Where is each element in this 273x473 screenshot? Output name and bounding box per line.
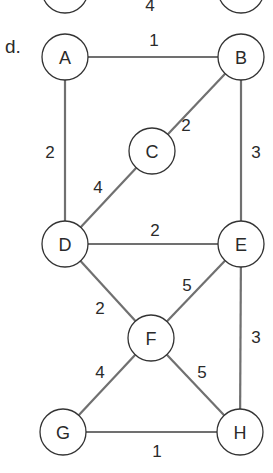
edge-weight-B-C: 2 <box>181 116 190 135</box>
edge-weight-F-G: 4 <box>95 363 104 382</box>
edge-E-H <box>240 244 241 432</box>
edge-weight-E-F: 5 <box>182 276 191 295</box>
node-E: E <box>218 221 264 267</box>
weighted-graph: 4 122342253451 ABCDEFGH <box>0 0 273 473</box>
partial-edge-weight: 4 <box>145 0 154 15</box>
edge-weight-D-E: 2 <box>150 221 159 240</box>
partial-node-1 <box>218 0 264 13</box>
node-label: F <box>146 329 157 349</box>
previous-subfigure-fragment: 4 <box>42 0 264 15</box>
node-C: C <box>129 128 175 174</box>
graph-edges <box>63 57 241 432</box>
node-A: A <box>42 34 88 80</box>
graph-diagram: d. 4 122342253451 ABCDEFGH <box>0 0 273 473</box>
node-B: B <box>218 34 264 80</box>
node-label: B <box>235 48 247 68</box>
node-label: E <box>235 235 247 255</box>
edge-weight-C-D: 4 <box>93 178 102 197</box>
node-F: F <box>128 315 174 361</box>
edge-weight-D-F: 2 <box>95 299 104 318</box>
edge-weight-F-H: 5 <box>197 363 206 382</box>
node-label: H <box>234 423 247 443</box>
subfigure-label: d. <box>5 36 21 58</box>
node-label: G <box>56 423 70 443</box>
node-D: D <box>42 221 88 267</box>
edge-weight-B-E: 3 <box>251 143 260 162</box>
edge-weight-A-D: 2 <box>45 143 54 162</box>
node-label: C <box>146 142 159 162</box>
partial-node-0 <box>42 0 88 13</box>
node-H: H <box>217 409 263 455</box>
node-G: G <box>40 409 86 455</box>
node-label: A <box>59 48 71 68</box>
edge-weight-E-H: 3 <box>251 328 260 347</box>
edge-weight-A-B: 1 <box>149 31 158 50</box>
edge-weight-G-H: 1 <box>152 442 161 461</box>
node-label: D <box>59 235 72 255</box>
